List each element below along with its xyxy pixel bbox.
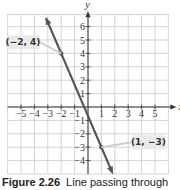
y-tick-label: 5 (80, 35, 85, 46)
y-axis-label: y (84, 0, 90, 10)
y-tick-label: −4 (74, 155, 85, 166)
caption-text: Line passing through (66, 176, 168, 188)
figure-label: Figure 2.26 (2, 176, 60, 188)
x-tick-label: 5 (153, 108, 158, 119)
x-tick-label: 2 (112, 108, 117, 119)
line-arrow-bottom (107, 166, 113, 175)
y-tick-label: 3 (80, 61, 85, 72)
x-tick-label: −2 (56, 108, 67, 119)
x-tick-label: −3 (42, 108, 53, 119)
y-tick-label: −2 (74, 128, 85, 139)
y-tick-label: −3 (74, 142, 85, 153)
x-axis-label: x (177, 100, 180, 112)
annotation-label: (1, −3) (131, 137, 166, 147)
x-tick-label: 4 (139, 108, 144, 119)
line-arrow-top (45, 17, 51, 26)
x-tick-label: −4 (29, 108, 40, 119)
y-tick-label: 6 (80, 21, 85, 32)
annotation-label: (−2, 4) (6, 37, 41, 47)
x-tick-label: −5 (16, 108, 27, 119)
figure-caption: Figure 2.26Line passing through (2, 176, 168, 188)
y-tick-label: 2 (80, 75, 85, 86)
coordinate-plane: xy −5−4−3−2−112345−4−3−2−1123456 (−2, 4)… (0, 0, 180, 175)
y-tick-label: −1 (74, 115, 85, 126)
x-axis-arrow (170, 105, 176, 110)
annotation-leader (101, 142, 131, 147)
x-tick-label: 3 (126, 108, 131, 119)
y-tick-label: 4 (80, 48, 85, 59)
x-tick-label: 1 (99, 108, 104, 119)
